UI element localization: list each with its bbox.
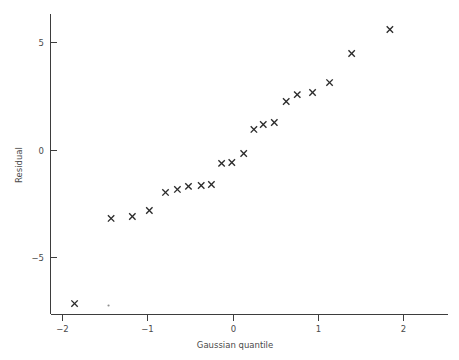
x-tick-label-minus1: −1 — [141, 324, 154, 334]
x-axis-tick-labels: −2 −1 0 1 2 — [56, 324, 406, 334]
qq-plot-figure: 5 0 −5 −2 −1 0 1 2 Gaussian quantile Res… — [0, 0, 459, 360]
data-point-marker — [260, 121, 266, 127]
data-point-marker — [326, 79, 332, 85]
x-tick-label-1: 1 — [316, 324, 321, 334]
x-axis-ticks — [63, 315, 404, 322]
x-tick-label-2: 2 — [401, 324, 406, 334]
y-tick-label-0: 0 — [39, 146, 44, 156]
data-point-marker — [309, 89, 315, 95]
data-point-marker — [71, 300, 77, 306]
artifact-layer — [107, 304, 109, 306]
y-tick-label-minus5: −5 — [31, 253, 44, 263]
y-axis-ticks — [51, 43, 58, 258]
plot-canvas: 5 0 −5 −2 −1 0 1 2 Gaussian quantile Res… — [0, 0, 459, 360]
data-point-marker — [218, 160, 224, 166]
data-point-marker — [208, 181, 214, 187]
data-point-marker — [174, 186, 180, 192]
data-point-marker — [129, 213, 135, 219]
data-point-marker — [348, 50, 354, 56]
data-point-marker — [162, 189, 168, 195]
y-axis-tick-labels: 5 0 −5 — [31, 38, 44, 263]
data-point-marker — [251, 126, 257, 132]
data-point-layer — [71, 26, 393, 307]
y-tick-label-5: 5 — [39, 38, 44, 48]
data-point-marker — [241, 150, 247, 156]
stray-speck — [107, 304, 109, 306]
data-point-marker — [108, 215, 114, 221]
x-tick-label-0: 0 — [231, 324, 236, 334]
data-point-marker — [198, 182, 204, 188]
data-point-marker — [294, 91, 300, 97]
data-point-marker — [387, 26, 393, 32]
x-axis-title: Gaussian quantile — [197, 340, 273, 350]
data-point-marker — [185, 183, 191, 189]
data-point-marker — [146, 207, 152, 213]
data-point-marker — [271, 119, 277, 125]
x-tick-label-minus2: −2 — [56, 324, 69, 334]
y-axis-title: Residual — [14, 147, 24, 183]
data-point-marker — [283, 98, 289, 104]
data-point-marker — [229, 159, 235, 165]
